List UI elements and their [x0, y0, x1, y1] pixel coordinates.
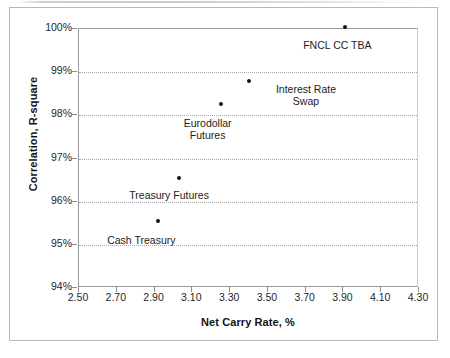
y-tick-mark: [72, 201, 77, 202]
gridline-y-97: [79, 159, 417, 160]
point-label: Interest Rate Swap: [236, 83, 376, 108]
y-tick-mark: [72, 114, 77, 115]
y-tick-label: 96%: [28, 195, 72, 206]
point-label: FNCL CC TBA: [267, 39, 407, 52]
y-tick-mark: [72, 71, 77, 72]
y-tick-label: 98%: [28, 108, 72, 119]
y-tick-label: 99%: [28, 65, 72, 76]
data-point: [343, 25, 347, 29]
x-tick-label: 3.90: [322, 291, 362, 303]
point-label: Treasury Futures: [99, 189, 239, 202]
data-point: [156, 219, 160, 223]
x-tick-label: 2.90: [134, 291, 174, 303]
y-tick-label: 95%: [28, 238, 72, 249]
scan-artifact: [18, 1, 422, 3]
data-point: [177, 176, 181, 180]
scatter-chart-figure: Correlation, R-square 94%95%96%97%98%99%…: [0, 0, 450, 358]
x-tick-label: 3.30: [209, 291, 249, 303]
point-label: Cash Treasury: [71, 234, 211, 247]
x-tick-label: 3.70: [285, 291, 325, 303]
x-axis-title: Net Carry Rate, %: [78, 316, 418, 328]
y-tick-label: 100%: [28, 22, 72, 33]
x-tick-label: 3.50: [247, 291, 287, 303]
x-axis-tick-labels: 2.502.702.903.103.303.503.703.904.104.30: [0, 291, 450, 307]
y-tick-label: 97%: [28, 152, 72, 163]
y-tick-mark: [72, 287, 77, 288]
data-point: [219, 102, 223, 106]
x-tick-label: 3.10: [171, 291, 211, 303]
plot-area: [78, 28, 418, 287]
x-tick-label: 2.50: [58, 291, 98, 303]
gridline-y-96: [79, 202, 417, 203]
point-label: Eurodollar Futures: [138, 117, 278, 142]
y-tick-mark: [72, 28, 77, 29]
x-tick-label: 4.30: [398, 291, 438, 303]
x-tick-label: 2.70: [96, 291, 136, 303]
y-tick-mark: [72, 158, 77, 159]
x-tick-label: 4.10: [360, 291, 400, 303]
gridline-y-99: [79, 72, 417, 73]
